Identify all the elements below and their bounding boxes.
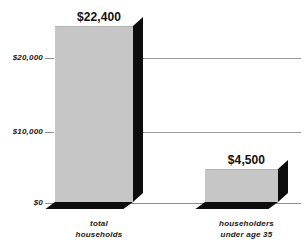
bar-side-shadow <box>133 17 143 202</box>
category-label-line2: households <box>55 229 143 240</box>
bar-side-shadow <box>278 160 288 202</box>
tick-20000 <box>45 58 54 59</box>
gridline-20000 <box>143 58 301 59</box>
category-label-line1: total <box>55 218 143 229</box>
y-axis-label-20000: $20,000 <box>13 54 43 62</box>
bar-householders-under-35 <box>205 169 278 202</box>
bar-value-label-total-households: $22,400 <box>55 11 143 23</box>
category-label-line1: householders <box>200 218 293 229</box>
y-axis-label-0: $0 <box>34 199 43 207</box>
bar-face <box>205 169 278 202</box>
category-label-line2: under age 35 <box>200 229 293 240</box>
bar-value-label-householders-under-35: $4,500 <box>205 154 288 166</box>
y-axis-label-10000: $10,000 <box>13 128 43 136</box>
bar-bottom-shadow <box>45 202 133 209</box>
category-label-total-households: total households <box>55 218 143 240</box>
gridline-10000 <box>143 132 301 133</box>
bar-face <box>55 26 133 202</box>
bar-chart: $20,000 $10,000 $0 $22,400 $4,500 total … <box>0 0 305 251</box>
tick-10000 <box>45 132 54 133</box>
bar-bottom-shadow <box>195 202 278 209</box>
bar-total-households <box>55 26 133 202</box>
category-label-householders-under-35: householders under age 35 <box>200 218 293 240</box>
